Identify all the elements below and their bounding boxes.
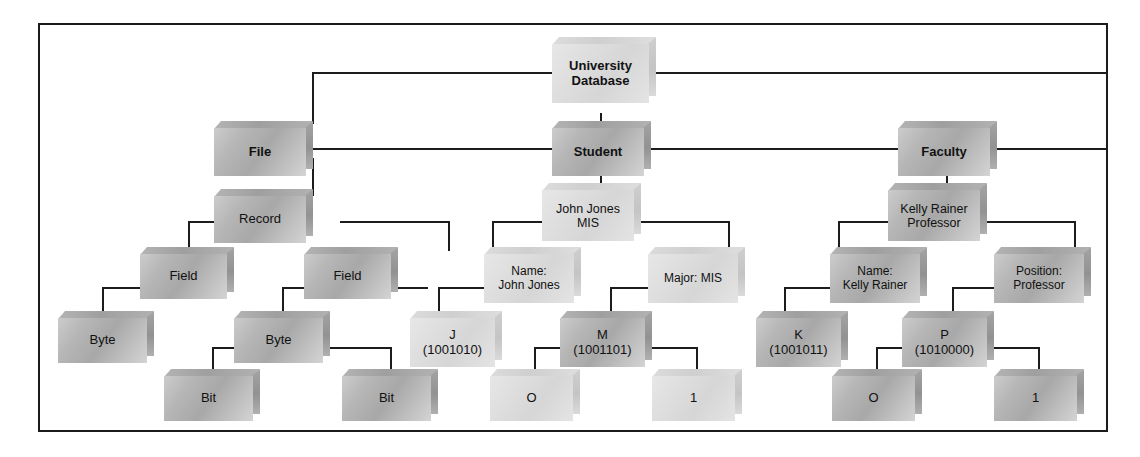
node-label: Record [236,212,284,227]
node-field-left[interactable]: Field [140,247,234,299]
node-bit-right[interactable]: Bit [342,369,438,421]
node-label: Field [330,269,364,284]
node-body: J (1001010) [410,318,495,367]
node-label: Bit [198,391,219,406]
connector-root-to-file [312,72,314,124]
node-label: Byte [86,333,118,348]
node-char-k[interactable]: K (1001011) [756,311,848,367]
node-right-face [734,369,742,414]
connector-kelly-bus-right [976,221,1076,223]
node-char-m[interactable]: M (1001101) [560,311,652,367]
node-body: Kelly Rainer Professor [888,190,980,241]
node-right-face [919,247,927,296]
node-right-face [494,311,502,360]
node-right-face [643,121,651,169]
diagram-canvas: University Database File Student Faculty [40,25,1106,430]
node-right-face [430,369,438,414]
node-right-face [1083,247,1091,296]
connector-m-bus-right [644,347,698,349]
node-right-face [390,247,398,292]
node-faculty[interactable]: Faculty [898,121,997,176]
node-university-database[interactable]: University Database [552,37,656,103]
figure-frame: University Database File Student Faculty [38,23,1108,432]
node-label: Major: MIS [661,272,725,285]
node-field-right[interactable]: Field [304,247,398,299]
node-right-face [989,121,997,169]
node-position-professor[interactable]: Position: Professor [994,247,1091,303]
node-bit-student-one[interactable]: 1 [652,369,742,421]
node-label: P (1010000) [912,328,977,357]
node-label: Field [166,269,200,284]
node-right-face [573,247,581,296]
connector-root-bus-left [312,72,552,74]
node-major-mis[interactable]: Major: MIS [648,247,745,303]
node-name-kelly-rainer[interactable]: Name: Kelly Rainer [830,247,927,303]
node-record[interactable]: Record [214,189,313,243]
node-right-face [305,121,313,169]
node-label: Name: Kelly Rainer [840,265,911,292]
connector-p-to-one [1038,347,1040,371]
node-label: Byte [262,333,294,348]
node-label: K (1001011) [766,328,830,357]
node-byte-right[interactable]: Byte [234,311,330,363]
node-right-face [648,37,656,96]
node-label: University Database [566,59,635,88]
node-body: O [490,376,573,421]
node-john-jones[interactable]: John Jones MIS [542,183,641,241]
node-student[interactable]: Student [552,121,651,176]
node-label: M (1001101) [570,328,634,357]
node-body: John Jones MIS [542,190,634,241]
node-body: Byte [234,318,323,363]
node-label: O [865,391,881,406]
node-bit-faculty-one[interactable]: 1 [994,369,1084,421]
connector-m-to-zero [534,347,536,371]
connector-p-to-zero [876,347,878,371]
connector-byte-to-bit-left [212,347,214,371]
connector-byte-bus-right [328,347,392,349]
node-char-p[interactable]: P (1010000) [902,311,994,367]
node-body: Field [304,254,391,299]
node-right-face [737,247,745,296]
node-bit-faculty-zero[interactable]: O [832,369,922,421]
node-label: O [523,391,539,406]
node-body: Byte [58,318,147,363]
node-body: Student [552,128,644,176]
connector-record-bus-right [340,221,450,223]
node-label: 1 [1029,391,1042,406]
node-label: Position: Professor [1010,265,1067,292]
connector-record-to-field-right [448,221,450,251]
node-kelly-rainer[interactable]: Kelly Rainer Professor [888,183,987,241]
node-body: Major: MIS [648,254,738,303]
node-right-face [146,311,154,356]
connector-byte-to-bit-right [390,347,392,371]
connector-p-bus-right [986,347,1040,349]
node-right-face [914,369,922,414]
node-label: J (1001010) [420,328,485,357]
connector-m-to-one [696,347,698,371]
node-label: Student [571,145,625,160]
node-body: Faculty [898,128,990,176]
node-bit-student-zero[interactable]: O [490,369,580,421]
node-label: Bit [376,391,397,406]
node-body: Field [140,254,227,299]
node-byte-left[interactable]: Byte [58,311,154,363]
node-file[interactable]: File [214,121,313,176]
node-right-face [572,369,580,414]
node-body: P (1010000) [902,318,987,367]
node-body: M (1001101) [560,318,645,367]
node-right-face [305,189,313,236]
node-name-john-jones[interactable]: Name: John Jones [484,247,581,303]
connector-student-faculty [640,148,1106,150]
node-label: Faculty [918,145,970,160]
node-body: O [832,376,915,421]
node-right-face [979,183,987,234]
node-body: Name: John Jones [484,254,574,303]
node-body: Bit [342,376,431,421]
node-body: File [214,128,306,176]
node-right-face [252,369,260,414]
node-bit-left[interactable]: Bit [164,369,260,421]
node-label: 1 [687,391,700,406]
node-body: University Database [552,44,649,103]
node-char-j[interactable]: J (1001010) [410,311,502,367]
node-label: File [246,145,274,160]
